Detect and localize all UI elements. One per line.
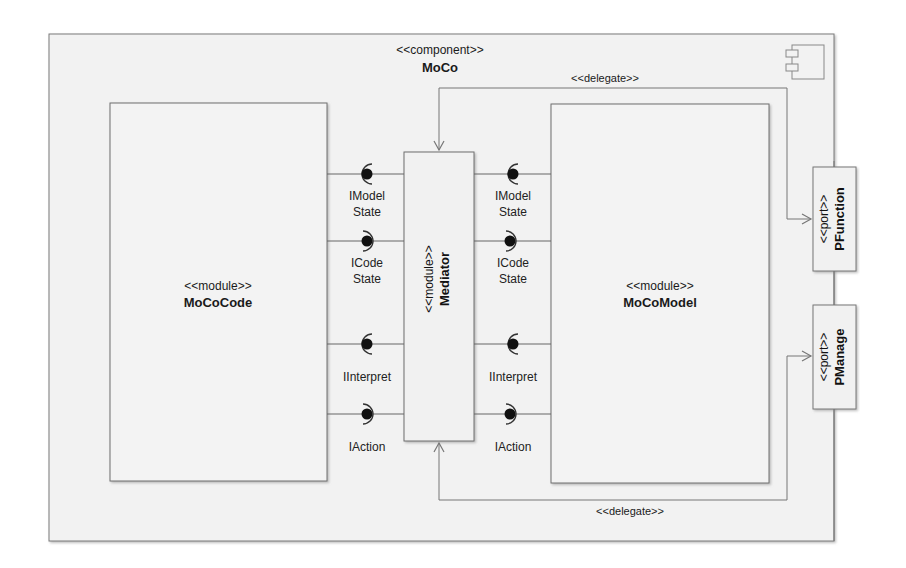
module-moco-model-name: MoCoModel [610,295,710,310]
port-pfunction-name: PFunction [832,169,847,269]
interface-label-iinterpret-left: IInterpret [327,369,407,385]
diagram-canvas: …components are introduced. A component … [0,0,906,568]
port-pmanage-stereotype: <<port>> [817,307,832,407]
ball-iinterpret-left [362,339,373,350]
interface-label-iinterpret-right: IInterpret [473,369,553,385]
interface-label-iaction-left: IAction [327,439,407,455]
port-pmanage-name: PManage [832,307,847,407]
component-stereotype: <<component>> [380,43,500,57]
ball-icode-state-right [505,236,516,247]
ball-icode-state-left [362,236,373,247]
interface-label-imodel-state-right: IModelState [473,188,553,220]
module-mediator-name: Mediator [437,229,452,329]
ball-iinterpret-right [508,339,519,350]
module-mediator-label: <<module>> Mediator [422,229,456,329]
module-moco-model-stereotype: <<module>> [610,279,710,293]
interface-label-iaction-right: IAction [473,439,553,455]
ball-iaction-left [362,409,373,420]
delegate-label-top: <<delegate>> [555,72,655,84]
module-moco-code-name: MoCoCode [168,295,268,310]
port-pfunction-label: <<port>> PFunction [817,169,851,269]
port-pfunction-stereotype: <<port>> [817,169,832,269]
ball-imodel-state-right [508,169,519,180]
interface-label-icode-state-left: ICodeState [327,255,407,287]
module-moco-code-stereotype: <<module>> [168,279,268,293]
ball-imodel-state-left [362,169,373,180]
interface-label-icode-state-right: ICodeState [473,255,553,287]
delegate-label-bottom: <<delegate>> [580,505,680,517]
port-pmanage-label: <<port>> PManage [817,307,851,407]
component-name: MoCo [380,60,500,75]
ball-iaction-right [505,409,516,420]
module-moco-model-box [551,104,769,483]
interface-label-imodel-state-left: IModelState [327,188,407,220]
module-mediator-stereotype: <<module>> [422,229,437,329]
